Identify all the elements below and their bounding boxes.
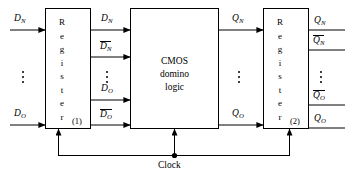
output-label-qn-base: Q <box>314 15 321 25</box>
input-label-do: DO <box>14 109 26 119</box>
input-ellipsis-icon <box>22 68 24 86</box>
output-label-qn-bar: QN <box>313 35 324 46</box>
mid-label-dn-bar-base: D <box>100 41 107 51</box>
register1-label: R e g i s t e r <box>55 18 69 122</box>
input-label-do-base: D <box>14 108 21 118</box>
output-label-qo-sub: O <box>321 117 326 124</box>
output-label-qo-bar-sub: O <box>320 94 325 101</box>
register1-letter: i <box>61 59 64 68</box>
register1-letter: R <box>59 18 65 27</box>
output-label-qn-bar-sub: N <box>320 39 325 46</box>
logic-label-qn-base: Q <box>232 13 239 23</box>
register1-letter: e <box>60 99 64 108</box>
register1-letter: r <box>61 113 64 122</box>
register2-letter: R <box>277 18 283 27</box>
logic-label-qo-base: Q <box>232 108 239 118</box>
register2-letter: i <box>279 59 282 68</box>
mid-ellipsis-icon <box>106 68 108 86</box>
input-label-dn: DN <box>14 14 25 24</box>
register2-index: (2) <box>290 116 300 126</box>
register1-letter: s <box>60 72 64 81</box>
mid-label-dn-bar: DN <box>100 41 111 52</box>
output-label-qo: QO <box>314 114 326 124</box>
logic-label-qn: QN <box>232 14 243 24</box>
clock-label: Clock <box>158 160 181 170</box>
register2-letter: r <box>279 113 282 122</box>
mid-label-do-bar: DO <box>100 109 112 120</box>
clock-junction-dot <box>172 153 177 158</box>
mid-label-dn-base: D <box>101 13 108 23</box>
logic-label-qn-sub: N <box>239 17 244 24</box>
output-label-qo-bar: QO <box>313 90 325 101</box>
output-ellipsis-icon <box>320 68 322 86</box>
register2-label: R e g i s t e r <box>273 18 287 122</box>
cmos-line-2: domino <box>130 68 219 81</box>
cmos-line-1: CMOS <box>130 55 219 68</box>
output-label-qn-bar-base: Q <box>313 35 320 45</box>
register2-letter: e <box>278 32 282 41</box>
mid-label-dn-sub: N <box>108 17 113 24</box>
logic-label-qo-sub: O <box>239 112 244 119</box>
cmos-line-3: logic <box>130 81 219 94</box>
register2-letter: g <box>278 45 283 54</box>
block-diagram: R e g i s t e r (1) CMOS domino logic R … <box>0 0 348 177</box>
input-label-do-sub: O <box>21 112 26 119</box>
register1-letter: g <box>60 45 65 54</box>
logic-ellipsis-icon <box>238 68 240 86</box>
mid-label-dn-bar-sub: N <box>107 45 112 52</box>
input-label-dn-base: D <box>14 13 21 23</box>
cmos-logic-label: CMOS domino logic <box>130 55 219 94</box>
input-label-dn-sub: N <box>21 17 26 24</box>
mid-label-do-sub: O <box>108 87 113 94</box>
mid-label-do-bar-sub: O <box>107 113 112 120</box>
register2-letter: s <box>278 72 282 81</box>
mid-label-dn: DN <box>101 14 112 24</box>
register1-letter: t <box>61 86 64 95</box>
register1-letter: e <box>60 32 64 41</box>
logic-label-qo: QO <box>232 109 244 119</box>
register1-index: (1) <box>72 116 82 126</box>
output-label-qo-base: Q <box>314 113 321 123</box>
register2-letter: e <box>278 99 282 108</box>
output-label-qn-sub: N <box>321 19 326 26</box>
register2-letter: t <box>279 86 282 95</box>
output-label-qn: QN <box>314 16 325 26</box>
output-label-qo-bar-base: Q <box>313 90 320 100</box>
mid-label-do-bar-base: D <box>100 109 107 119</box>
